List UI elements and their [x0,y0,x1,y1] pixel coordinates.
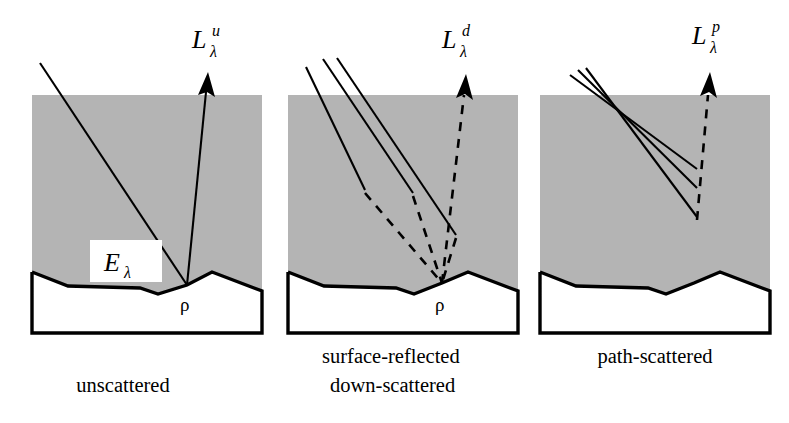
radiance-symbol-superscript-3: p [711,18,720,36]
radiative-transfer-diagram: E λ ρ L u λ unscattered ρ L d λ surface-… [0,0,789,423]
panel-path-scattered: L p λ path-scattered [540,18,770,368]
irradiance-symbol-subscript: λ [123,264,131,281]
radiance-symbol-base-2: L [441,25,456,54]
figure-root: E λ ρ L u λ unscattered ρ L d λ surface-… [0,0,789,423]
radiance-symbol-subscript-2: λ [459,43,467,60]
panel-caption-down-scattered: down-scattered [330,374,455,396]
radiance-symbol-base-1: L [191,25,206,54]
atmosphere-region-3 [540,95,770,294]
surface-reflectance-symbol-1: ρ [180,294,189,315]
surface-reflectance-symbol-2: ρ [435,294,444,315]
panel-caption-unscattered: unscattered [76,374,169,396]
radiance-symbol-superscript-2: d [462,22,471,39]
irradiance-symbol-base: E [103,248,120,277]
panel-caption-surface-reflected: surface-reflected [322,345,460,367]
radiance-symbol-subscript-3: λ [709,39,717,56]
arrow-head-icon-3 [700,72,717,98]
panel-caption-path-scattered: path-scattered [598,345,713,368]
panel-surface-reflected-down-scattered: ρ L d λ surface-reflected down-scattered [288,22,518,396]
radiance-symbol-base-3: L [691,21,706,50]
atmosphere-region-2 [288,95,518,294]
radiance-symbol-superscript-1: u [212,22,220,39]
radiance-symbol-subscript-1: λ [209,43,217,60]
panel-unscattered: E λ ρ L u λ unscattered [32,22,262,396]
